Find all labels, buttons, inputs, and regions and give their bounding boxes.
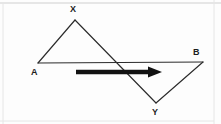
segment-x-y [75,20,156,103]
geometry-figure: A B X Y [0,0,221,124]
segment-y-b [156,62,203,103]
vertex-label-x: X [70,5,76,14]
vertex-label-a: A [31,68,38,77]
vertex-label-y: Y [152,108,158,117]
figure-canvas [0,0,221,124]
vertex-label-b: B [193,48,200,57]
segment-a-b [38,62,203,63]
segment-a-x [38,20,75,63]
direction-arrow-head [148,67,162,78]
